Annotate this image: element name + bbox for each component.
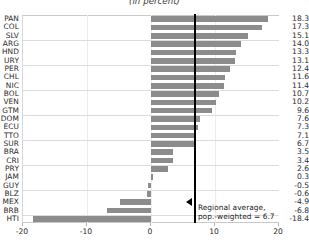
bar-row: COL17.3: [23, 23, 279, 31]
bar: [151, 125, 198, 131]
chart-title: (in percent): [0, 0, 309, 6]
bar-row: SLV15.1: [23, 32, 279, 40]
x-axis-tick-label: -10: [80, 227, 92, 236]
bar: [107, 208, 151, 214]
bar: [151, 174, 153, 180]
bar-row: CHL11.6: [23, 73, 279, 81]
bar: [147, 191, 151, 197]
bar-row: TTO7.1: [23, 131, 279, 139]
bar-row: URY13.1: [23, 57, 279, 65]
bar-row: JAM0.3: [23, 173, 279, 181]
value-label: -4.9: [285, 198, 309, 206]
bar: [151, 149, 173, 155]
bar: [151, 116, 200, 122]
x-axis-tick-label: 0: [148, 227, 153, 236]
bar: [151, 141, 194, 147]
chart-container: (in percent) PAN18.3COL17.3SLV15.1ARG14.…: [0, 0, 309, 243]
category-label: HTI: [6, 215, 19, 223]
bar-row: DOM7.6: [23, 115, 279, 123]
bar-rows: PAN18.3COL17.3SLV15.1ARG14.0HND13.3URY13…: [23, 15, 279, 223]
reference-annotation-line1: Regional average,: [198, 203, 275, 212]
bar: [151, 158, 173, 164]
bar: [151, 41, 241, 47]
bar-row: PAN18.3: [23, 15, 279, 23]
bar-row: GTM9.6: [23, 107, 279, 115]
bar: [151, 100, 216, 106]
bar-row: PRY2.6: [23, 165, 279, 173]
bar: [151, 91, 219, 97]
bar: [33, 216, 151, 222]
bar: [151, 166, 168, 172]
bar-row: BLZ-0.6: [23, 190, 279, 198]
x-axis-tick: [22, 223, 23, 226]
bar: [148, 183, 151, 189]
bar-row: HND13.3: [23, 48, 279, 56]
bar-row: ECU7.3: [23, 123, 279, 131]
x-axis-tick-label: 10: [209, 227, 219, 236]
x-axis-tick: [150, 223, 151, 226]
bar-row: CRI3.4: [23, 156, 279, 164]
bar: [151, 83, 224, 89]
x-axis-tick-label: -20: [16, 227, 28, 236]
bar-row: VEN10.2: [23, 98, 279, 106]
x-axis-tick: [214, 223, 215, 226]
reference-annotation-line2: pop.-weighted = 6.7: [198, 212, 275, 221]
bar-row: PER12.4: [23, 65, 279, 73]
bar: [120, 199, 151, 205]
reference-line-annotation: Regional average,pop.-weighted = 6.7: [198, 203, 275, 221]
value-label: -18.4: [285, 215, 309, 223]
bar-row: NIC11.4: [23, 82, 279, 90]
bar-row: GUY-0.5: [23, 181, 279, 189]
reference-line: [194, 14, 196, 223]
bar: [151, 66, 230, 72]
bar-row: BOL10.7: [23, 90, 279, 98]
x-axis-tick: [278, 223, 279, 226]
bar: [151, 33, 248, 39]
plot-area: PAN18.3COL17.3SLV15.1ARG14.0HND13.3URY13…: [22, 15, 279, 223]
category-label: MEX: [3, 198, 19, 206]
bar: [151, 133, 196, 139]
bar: [151, 75, 225, 81]
x-axis-tick-label: 20: [273, 227, 283, 236]
reference-arrow-icon: [186, 198, 192, 206]
bar-row: BRA3.5: [23, 148, 279, 156]
x-axis: -20-1001020: [22, 223, 278, 243]
bar: [151, 25, 262, 31]
x-axis-tick: [86, 223, 87, 226]
bar: [151, 108, 212, 114]
bar-row: ARG14.0: [23, 40, 279, 48]
bar-row: SUR6.7: [23, 140, 279, 148]
bar: [151, 16, 268, 22]
